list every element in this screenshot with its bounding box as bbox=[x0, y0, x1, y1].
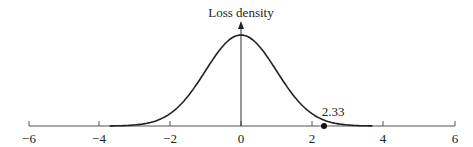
tick-label: 2 bbox=[309, 131, 316, 146]
tick-label: −6 bbox=[22, 131, 36, 146]
y-axis-arrow-icon bbox=[238, 21, 244, 29]
x-ticks bbox=[29, 121, 455, 126]
x-tick-labels: −6 −4 −2 0 2 4 6 bbox=[22, 131, 459, 146]
var-marker-dot bbox=[321, 123, 327, 129]
y-axis-label: Loss density bbox=[208, 5, 274, 20]
tick-label: −4 bbox=[92, 131, 106, 146]
tick-label: 4 bbox=[380, 131, 387, 146]
var-marker-label: 2.33 bbox=[322, 104, 345, 119]
tick-label: 6 bbox=[452, 131, 459, 146]
tick-label: 0 bbox=[238, 131, 245, 146]
loss-density-chart: −6 −4 −2 0 2 4 6 Loss density 2.33 bbox=[0, 0, 473, 147]
tick-label: −2 bbox=[163, 131, 177, 146]
